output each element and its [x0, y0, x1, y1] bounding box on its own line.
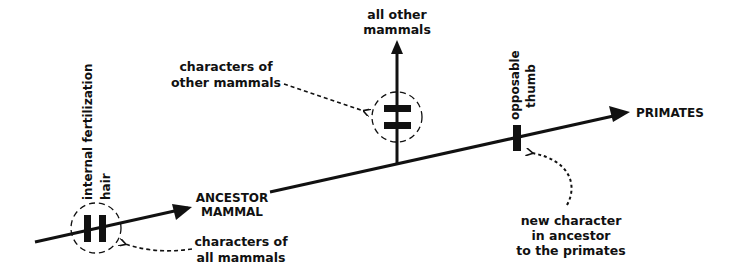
- trait-bar-other-1: [384, 105, 411, 112]
- ancestor-arrowhead: [172, 204, 192, 220]
- trait-label-internal-fertilization: internal fertilization: [81, 64, 95, 200]
- trait-bar-internal-fertilization: [84, 215, 91, 242]
- pointer-new-character: [532, 153, 572, 205]
- trait-label-opposable: opposable: [508, 50, 522, 120]
- annotation-new-character-line1: new character: [521, 213, 622, 228]
- annotation-other-mammals-line2: other mammals: [171, 75, 281, 90]
- trait-bar-other-2: [384, 122, 411, 129]
- node-label-ancestor-line1: ANCESTOR: [196, 191, 269, 205]
- cladogram: internal fertilization hair opposable th…: [0, 0, 730, 280]
- annotation-all-mammals-line2: all mammals: [196, 250, 285, 265]
- lineage-to-primates: [270, 115, 618, 192]
- node-label-other-mammals-line1: all other: [367, 7, 427, 22]
- node-label-primates: PRIMATES: [636, 106, 704, 120]
- node-label-other-mammals-line2: mammals: [363, 22, 431, 37]
- node-label-ancestor-line2: MAMMAL: [201, 205, 263, 219]
- primates-arrowhead: [609, 106, 630, 122]
- annotation-all-mammals-line1: characters of: [194, 234, 288, 249]
- trait-label-thumb: thumb: [524, 64, 538, 108]
- stem-to-ancestor: [35, 208, 188, 242]
- trait-label-hair: hair: [99, 173, 113, 200]
- trait-bar-opposable-thumb: [513, 125, 521, 151]
- pointer-all-mammals: [125, 244, 192, 251]
- other-mammals-arrowhead: [391, 40, 403, 54]
- annotation-new-character-line3: to the primates: [516, 243, 625, 258]
- trait-bar-hair: [99, 215, 106, 242]
- annotation-new-character-line2: in ancestor: [532, 228, 612, 243]
- pointer-other-mammals: [284, 84, 364, 111]
- annotation-other-mammals-line1: characters of: [179, 59, 273, 74]
